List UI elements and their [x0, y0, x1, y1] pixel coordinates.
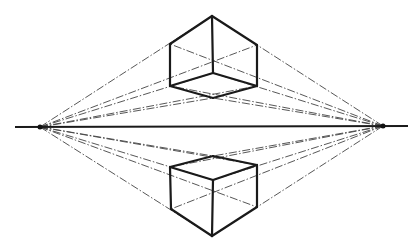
cube-edge [212, 16, 213, 73]
right-guide-line [170, 86, 383, 126]
right-guide-line [213, 98, 383, 126]
cube-edge [170, 16, 212, 44]
perspective-diagram [0, 0, 418, 250]
cube-edge [213, 86, 257, 98]
cube-edge [213, 156, 257, 165]
cube-edge [212, 16, 257, 45]
cube-edge [170, 156, 213, 167]
cube-edge [170, 167, 171, 209]
right-guide-line [171, 126, 383, 209]
left-vp [38, 125, 43, 130]
cube-edge [170, 86, 213, 98]
right-guide-line [170, 44, 383, 126]
cube-below-horizon [170, 156, 257, 236]
cube-edge [170, 167, 213, 180]
horizon-line [15, 126, 408, 127]
cube-edge [170, 73, 213, 86]
left-guide-line [40, 127, 257, 207]
right-guide-line [213, 126, 383, 156]
cube-edge [212, 180, 213, 236]
cube-edge [212, 207, 257, 236]
cube-above-horizon [170, 16, 257, 98]
left-guide-line [40, 98, 213, 127]
right-vp [381, 124, 386, 129]
left-guide-line [40, 127, 213, 156]
cube-edge [171, 209, 212, 236]
